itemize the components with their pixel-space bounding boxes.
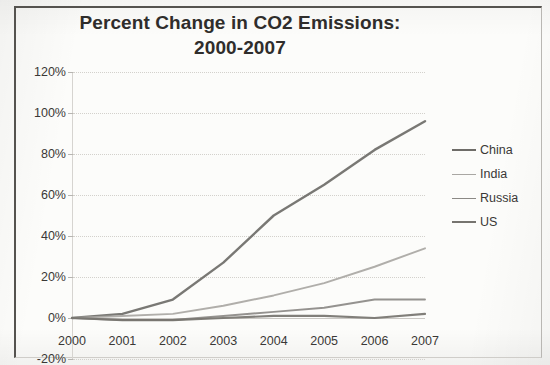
legend-item-china[interactable]: China <box>452 138 538 162</box>
legend-label: China <box>480 143 513 157</box>
plot-area <box>72 72 425 359</box>
legend-label: Russia <box>480 191 518 205</box>
y-axis-tick-label: 60% <box>10 188 66 202</box>
chart-screenshot: Percent Change in CO2 Emissions: 2000-20… <box>0 0 550 365</box>
x-axis-tick-label: 2002 <box>159 334 187 348</box>
y-axis-labels: 120%100%80%60%40%20%0%-20% <box>8 72 66 359</box>
y-axis-tick-label: 100% <box>10 106 66 120</box>
y-axis-tick-label: -20% <box>10 352 66 365</box>
y-axis-tick-label: 0% <box>10 311 66 325</box>
chart-title-line1: Percent Change in CO2 Emissions: <box>79 12 400 33</box>
series-lines <box>72 72 425 359</box>
legend-label: US <box>480 215 497 229</box>
chart-legend: ChinaIndiaRussiaUS <box>452 138 538 234</box>
legend-item-india[interactable]: India <box>452 162 538 186</box>
legend-line-swatch-icon <box>452 221 476 223</box>
legend-item-us[interactable]: US <box>452 210 538 234</box>
legend-line-swatch-icon <box>452 174 476 175</box>
legend-line-swatch-icon <box>452 198 476 199</box>
x-axis-tick-label: 2000 <box>58 334 86 348</box>
chart-area: Percent Change in CO2 Emissions: 2000-20… <box>0 0 550 365</box>
y-tick-mark <box>68 359 73 360</box>
legend-item-russia[interactable]: Russia <box>452 186 538 210</box>
legend-label: India <box>480 167 507 181</box>
gridline--20% <box>73 359 425 360</box>
series-line-china <box>72 121 425 318</box>
legend-line-swatch-icon <box>452 149 476 151</box>
x-axis-tick-label: 2001 <box>109 334 137 348</box>
x-axis-labels: 20002001200220032004200520062007 <box>72 334 425 356</box>
chart-title-line2: 2000-2007 <box>40 35 440 60</box>
y-axis-tick-label: 80% <box>10 147 66 161</box>
x-axis-tick-label: 2003 <box>209 334 237 348</box>
x-axis-tick-label: 2004 <box>260 334 288 348</box>
chart-title: Percent Change in CO2 Emissions: 2000-20… <box>40 10 440 60</box>
x-axis-tick-label: 2006 <box>361 334 389 348</box>
y-axis-tick-label: 40% <box>10 229 66 243</box>
x-axis-tick-label: 2007 <box>411 334 439 348</box>
y-axis-tick-label: 20% <box>10 270 66 284</box>
series-line-india <box>72 248 425 318</box>
x-axis-tick-label: 2005 <box>310 334 338 348</box>
y-axis-tick-label: 120% <box>10 65 66 79</box>
